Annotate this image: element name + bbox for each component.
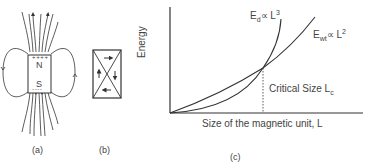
ewt-curve-label: Ewt∝ L2 <box>313 28 346 42</box>
x-axis-label: Size of the magnetic unit, L <box>202 118 323 129</box>
curve-ed <box>170 19 281 113</box>
y-axis-label: Energy <box>136 26 147 58</box>
bottom-charges: - - - - <box>32 86 42 92</box>
panel-b-label: (b) <box>99 145 110 155</box>
critical-size-label: Critical Size Lc <box>269 83 334 96</box>
closure-domain-diagram <box>93 50 121 98</box>
bar-magnet-diagram <box>1 12 77 136</box>
panel-c-label: (c) <box>230 152 241 162</box>
north-pole-label: N <box>36 60 43 70</box>
panel-a-label: (a) <box>32 145 43 155</box>
ed-curve-label: Ed∝ L3 <box>250 9 280 23</box>
curve-ewt <box>170 17 315 113</box>
